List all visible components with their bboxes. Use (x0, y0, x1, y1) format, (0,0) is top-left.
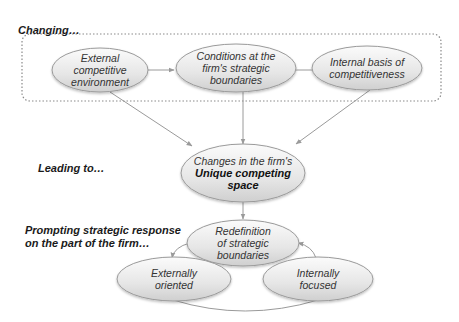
label-prompting-line2: on the part of the firm… (25, 237, 181, 250)
arrow-external-to-changes (110, 92, 192, 146)
node-internal-text: Internal basis of competitiveness (312, 48, 422, 88)
node-external-text: External competitive environment (52, 48, 148, 92)
node-externally-text: Externally oriented (117, 259, 231, 299)
arrow-externally-to-internally (173, 300, 318, 311)
label-leading-to: Leading to… (38, 162, 105, 175)
label-prompting: Prompting strategic response on the part… (25, 224, 181, 250)
arrow-internal-to-changes (296, 90, 370, 144)
node-changes-text: Changes in the firm's Unique competing s… (181, 150, 305, 196)
node-internally-text: Internally focused (263, 259, 373, 299)
node-conditions-text: Conditions at the firm's strategic bound… (176, 46, 296, 90)
label-prompting-line1: Prompting strategic response (25, 224, 181, 237)
label-changing: Changing… (18, 24, 80, 37)
arrow-internally-to-redefinition (298, 243, 316, 258)
